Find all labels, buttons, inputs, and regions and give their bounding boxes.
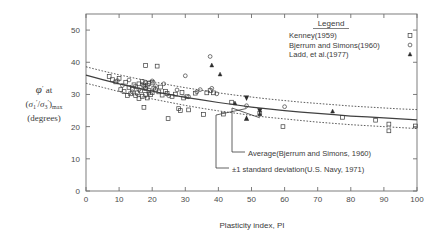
annotation-stddev-label: ±1 standard deviation(U.S. Navy, 1971) <box>232 165 365 174</box>
y-tick-label: 0 <box>76 187 81 196</box>
annotation-average-label: Average(Bjerrum and Simons, 1960) <box>248 149 372 158</box>
x-tick-label: 100 <box>410 195 424 204</box>
chart-figure: 0102030405060708090100 01020304050 Plast… <box>0 0 436 244</box>
x-tick-label: 40 <box>214 195 223 204</box>
plasticity-index-friction-angle-chart: 0102030405060708090100 01020304050 Plast… <box>0 0 436 244</box>
y-tick-label: 50 <box>71 26 80 35</box>
y-axis-title-line-1: φ′ at <box>36 83 53 95</box>
x-tick-label: 10 <box>115 195 124 204</box>
legend-label: Ladd, et al.(1977) <box>289 50 349 59</box>
x-tick-label: 0 <box>84 195 89 204</box>
x-tick-label: 50 <box>247 195 256 204</box>
legend-title: Legend <box>318 19 345 28</box>
legend-label: Bjerrum and Simons(1960) <box>289 41 380 50</box>
x-axis-title: Plasticity index, PI <box>220 221 285 230</box>
y-tick-label: 10 <box>71 155 80 164</box>
x-tick-label: 80 <box>346 195 355 204</box>
legend-label: Kenney(1959) <box>289 31 337 40</box>
x-tick-label: 60 <box>280 195 289 204</box>
x-tick-label: 30 <box>181 195 190 204</box>
y-axis-title-line-3: (degrees) <box>27 113 60 123</box>
chart-background <box>0 0 436 244</box>
y-tick-label: 40 <box>71 58 80 67</box>
y-tick-label: 20 <box>71 123 80 132</box>
x-tick-label: 90 <box>379 195 388 204</box>
x-tick-label: 70 <box>313 195 322 204</box>
x-tick-label: 20 <box>148 195 157 204</box>
y-tick-label: 30 <box>71 90 80 99</box>
